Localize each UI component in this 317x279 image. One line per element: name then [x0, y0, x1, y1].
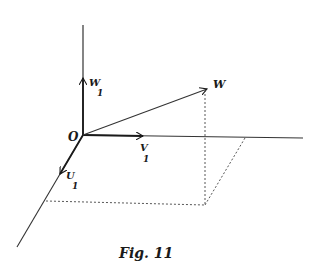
origin-label: O — [68, 130, 79, 144]
v1-basis-vector — [83, 135, 143, 136]
figure-caption: Fig. 11 — [118, 245, 173, 261]
u1-label: U — [66, 170, 76, 181]
projection-horizontal — [46, 201, 205, 205]
w1-subscript: 1 — [97, 88, 103, 98]
w-label: W — [213, 78, 227, 91]
w1-label: W — [89, 77, 102, 88]
vector-diagram: O W 1 V 1 U 1 W Fig. 11 — [0, 0, 317, 279]
projection-diagonal — [205, 138, 245, 205]
v1-label: V — [140, 142, 149, 153]
v1-subscript: 1 — [143, 154, 149, 164]
u1-subscript: 1 — [72, 181, 78, 191]
